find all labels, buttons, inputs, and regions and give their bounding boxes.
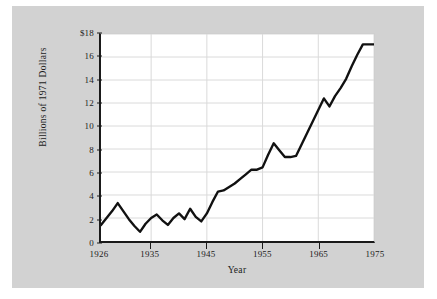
y-axis-tick-label: 2 bbox=[89, 215, 94, 225]
y-axis-tick-label: 6 bbox=[89, 168, 94, 178]
y-axis-tick-labels: $181614121086420 bbox=[50, 33, 94, 243]
data-line bbox=[101, 34, 374, 241]
y-axis-tick-mark bbox=[97, 33, 102, 34]
y-axis-tick-mark bbox=[97, 149, 102, 150]
chart-figure: $181614121086420 19261935194519551965197… bbox=[12, 6, 424, 288]
y-axis-tick-mark bbox=[97, 219, 102, 220]
x-axis-tick-mark bbox=[262, 243, 263, 249]
x-axis-tick-labels: 192619351945195519651975 bbox=[99, 249, 375, 265]
y-axis-tick-mark bbox=[97, 196, 102, 197]
x-axis-tick-mark bbox=[319, 243, 320, 249]
x-axis-tick-label: 1935 bbox=[140, 249, 159, 259]
x-axis-tick-label: 1955 bbox=[253, 249, 272, 259]
x-axis-tick-label: 1965 bbox=[309, 249, 328, 259]
y-axis-tick-label: 0 bbox=[89, 238, 94, 248]
y-axis-tick-mark bbox=[97, 126, 102, 127]
y-axis-tick-label: 10 bbox=[85, 121, 94, 131]
series-line bbox=[101, 44, 374, 231]
x-axis-tick-label: 1926 bbox=[90, 249, 109, 259]
x-axis-tick-mark bbox=[206, 243, 207, 249]
y-axis-tick-mark bbox=[97, 243, 102, 244]
y-axis-tick-label: 14 bbox=[85, 75, 94, 85]
y-axis-tick-label: $18 bbox=[80, 28, 94, 38]
y-axis-tick-mark bbox=[97, 56, 102, 57]
y-axis-tick-mark bbox=[97, 79, 102, 80]
y-axis-title: Billions of 1971 Dollars bbox=[38, 22, 48, 172]
y-axis-tick-mark bbox=[97, 103, 102, 104]
plot-area bbox=[99, 33, 375, 243]
y-axis-tick-label: 4 bbox=[89, 191, 94, 201]
chart-figure-inner: $181614121086420 19261935194519551965197… bbox=[12, 6, 424, 288]
x-axis-title: Year bbox=[99, 265, 375, 275]
y-axis-tick-label: 8 bbox=[89, 145, 94, 155]
x-axis-tick-mark bbox=[150, 243, 151, 249]
x-axis-tick-label: 1975 bbox=[366, 249, 385, 259]
y-axis-tick-mark bbox=[97, 173, 102, 174]
y-axis-tick-label: 16 bbox=[85, 51, 94, 61]
y-axis-tick-label: 12 bbox=[85, 98, 94, 108]
x-axis-tick-label: 1945 bbox=[197, 249, 216, 259]
